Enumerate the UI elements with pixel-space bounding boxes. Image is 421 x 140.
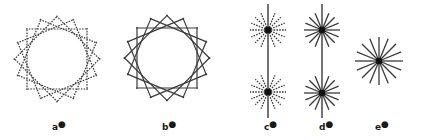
figure-e-solid-star (355, 37, 403, 85)
label-a: a● (52, 120, 66, 132)
figure-a-dashed-tangent-circle (14, 16, 100, 102)
label-c-mark: ● (269, 119, 277, 129)
label-c: c● (264, 120, 277, 132)
figure-b-solid-tangent-circle (124, 15, 210, 101)
figure-c-dashed-double-star (250, 4, 286, 118)
label-d-mark: ● (325, 119, 333, 129)
label-d: d● (319, 120, 333, 132)
label-e-mark: ● (381, 119, 389, 129)
label-b-mark: ● (168, 119, 176, 129)
label-b: b● (162, 120, 176, 132)
label-a-mark: ● (58, 119, 66, 129)
label-e: e● (375, 120, 389, 132)
figure-d-solid-double-star (304, 4, 340, 118)
